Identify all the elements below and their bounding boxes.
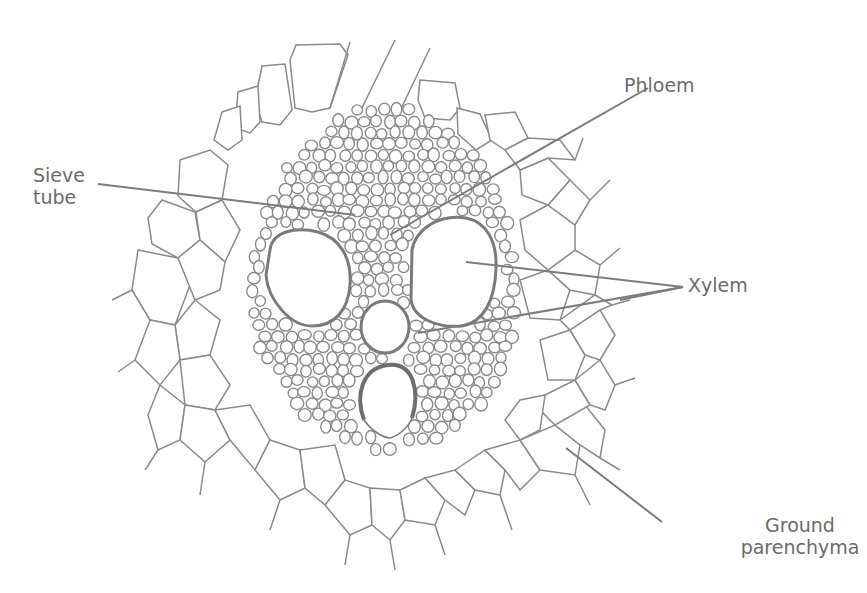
leader-xylem-mid — [620, 287, 683, 300]
label-ground-parenchyma: Ground parenchyma — [730, 514, 867, 558]
label-phloem: Phloem — [624, 74, 695, 96]
protoxylem-cavity — [360, 365, 415, 438]
label-sieve-tube: Sieve tube — [33, 164, 85, 208]
label-xylem: Xylem — [688, 274, 748, 296]
vascular-bundle-diagram: Phloem Sieve tube Xylem Ground parenchym… — [0, 0, 867, 593]
diagram-drawing — [0, 0, 867, 593]
